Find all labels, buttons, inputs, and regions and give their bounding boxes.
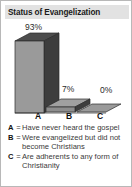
legend-item-b-cont: become Christians xyxy=(8,142,128,152)
bar-a-front-face xyxy=(15,41,44,113)
category-label-b: B xyxy=(62,111,76,121)
value-label-c: 0% xyxy=(100,85,112,95)
value-label-a: 93% xyxy=(25,22,42,32)
page-title: Status of Evangelization xyxy=(8,6,130,19)
legend-equals-b: = xyxy=(15,133,22,143)
chart-legend: A = Have never heard the gospel B = Were… xyxy=(8,123,128,171)
legend-text-c-line2: Christianity xyxy=(22,161,128,171)
legend-key-a: A xyxy=(8,123,15,133)
legend-equals-a: = xyxy=(15,123,22,133)
legend-text-a: Have never heard the gospel xyxy=(22,123,128,133)
bar-a xyxy=(15,33,59,113)
chart-figure: Status of Evangelization xyxy=(0,0,132,187)
category-label-c: C xyxy=(93,111,107,121)
legend-text-b: Were evangelized but did not xyxy=(22,133,128,143)
value-label-b: 7% xyxy=(62,84,74,94)
chart-plot-area xyxy=(1,19,132,119)
legend-item-c-cont: Christianity xyxy=(8,161,128,171)
legend-key-c: C xyxy=(8,152,15,162)
legend-key-b: B xyxy=(8,133,15,143)
legend-text-b-line2: become Christians xyxy=(22,142,128,152)
bar-chart-svg xyxy=(1,19,132,119)
legend-equals-c: = xyxy=(15,152,22,162)
category-label-a: A xyxy=(31,111,45,121)
legend-text-c: Are adherents to any form of xyxy=(22,152,128,162)
legend-item-c: C = Are adherents to any form of xyxy=(8,152,128,162)
legend-item-a: A = Have never heard the gospel xyxy=(8,123,128,133)
legend-item-b: B = Were evangelized but did not xyxy=(8,133,128,143)
